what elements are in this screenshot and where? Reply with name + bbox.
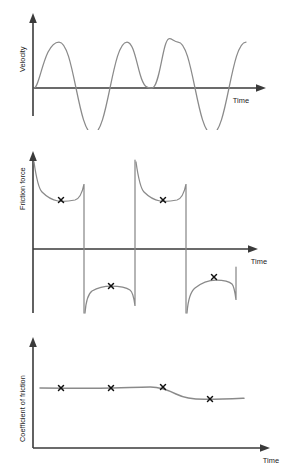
marker-x-4	[212, 275, 217, 280]
figure-stack: Velocity Time	[0, 0, 288, 470]
velocity-x-axis-label: Time	[233, 96, 249, 105]
coefficient-y-axis-label: Coefficient of friction	[18, 375, 27, 442]
coefficient-x-axis-label: Time	[263, 456, 279, 465]
velocity-curve	[34, 39, 246, 130]
friction-curve-segment-pos-2	[136, 162, 186, 313]
friction-force-chart: Friction force Time	[0, 130, 288, 315]
friction-force-x-axis	[33, 245, 258, 253]
coefficient-curve	[40, 387, 244, 399]
friction-force-markers	[59, 198, 217, 289]
friction-force-x-axis-label: Time	[251, 257, 267, 266]
friction-force-y-axis-label: Friction force	[18, 167, 27, 210]
friction-force-panel: Friction force Time	[0, 130, 288, 315]
friction-curve-segment-neg-1	[85, 160, 135, 313]
coefficient-y-axis	[29, 337, 37, 448]
velocity-y-axis-label: Velocity	[18, 46, 27, 72]
velocity-panel: Velocity Time	[0, 0, 288, 130]
coefficient-x-axis	[33, 444, 270, 452]
friction-curve-segment-pos-1	[34, 162, 84, 313]
velocity-y-axis	[29, 13, 37, 116]
coefficient-of-friction-panel: Coefficient of friction Time	[0, 315, 288, 470]
coefficient-of-friction-chart: Coefficient of friction Time	[0, 315, 288, 470]
velocity-chart: Velocity Time	[0, 0, 288, 130]
